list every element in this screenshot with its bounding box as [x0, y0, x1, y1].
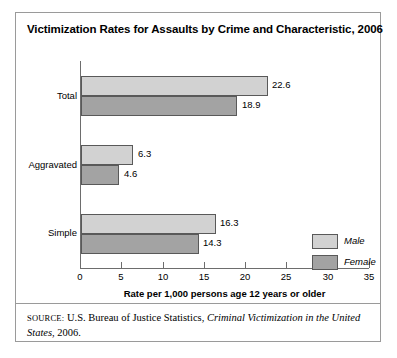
- x-tick-25: [286, 262, 287, 268]
- source-text-part1: U.S. Bureau of Justice Statistics,: [64, 312, 207, 323]
- x-tick-label-15: 15: [199, 271, 210, 282]
- bar-total-female: [81, 96, 237, 116]
- source-note: SOURCE: U.S. Bureau of Justice Statistic…: [27, 311, 365, 339]
- legend-label-male: Male: [344, 235, 365, 246]
- x-tick-10: [163, 262, 164, 268]
- bar-value-aggravated-male: 6.3: [138, 148, 151, 159]
- bar-aggravated-female: [81, 165, 119, 185]
- bar-simple-male: [81, 214, 216, 234]
- x-tick-label-0: 0: [77, 271, 82, 282]
- x-tick-15: [204, 262, 205, 268]
- legend-swatch-female: [312, 255, 338, 270]
- plot-area: 0 5 10 15 20 25 30 35 Total Aggravated S…: [16, 61, 380, 293]
- source-label: SOURCE:: [27, 313, 64, 323]
- legend: Male Female: [312, 233, 374, 275]
- figure-panel: Victimization Rates for Assaults by Crim…: [15, 12, 381, 342]
- legend-item-female: Female: [312, 254, 374, 275]
- bar-value-simple-male: 16.3: [220, 217, 239, 228]
- bar-value-simple-female: 14.3: [203, 237, 222, 248]
- bar-simple-female: [81, 234, 199, 254]
- legend-label-female: Female: [344, 256, 376, 267]
- x-tick-label-25: 25: [281, 271, 292, 282]
- category-label-simple: Simple: [48, 227, 77, 238]
- x-tick-label-10: 10: [158, 271, 169, 282]
- x-tick-label-20: 20: [240, 271, 251, 282]
- category-label-total: Total: [57, 90, 77, 101]
- x-axis-title: Rate per 1,000 persons age 12 years or o…: [80, 288, 369, 299]
- x-tick-0: [80, 262, 81, 268]
- x-tick-label-5: 5: [118, 271, 123, 282]
- source-text-part2: , 2006.: [52, 327, 81, 338]
- legend-swatch-male: [312, 234, 338, 249]
- bar-total-male: [81, 76, 268, 96]
- chart-title: Victimization Rates for Assaults by Crim…: [27, 23, 383, 35]
- bar-aggravated-male: [81, 145, 133, 165]
- x-tick-5: [121, 262, 122, 268]
- bar-value-total-female: 18.9: [242, 99, 261, 110]
- bar-value-total-male: 22.6: [272, 79, 291, 90]
- legend-item-male: Male: [312, 233, 374, 254]
- category-label-aggravated: Aggravated: [28, 159, 77, 170]
- x-tick-20: [245, 262, 246, 268]
- divider: [16, 303, 380, 304]
- bar-value-aggravated-female: 4.6: [124, 168, 137, 179]
